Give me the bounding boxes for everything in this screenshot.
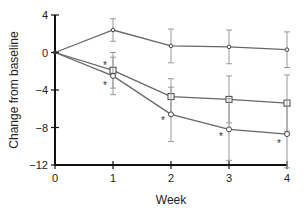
small-circle-marker bbox=[111, 28, 115, 32]
x-tick-label: 1 bbox=[110, 172, 116, 184]
circle-marker bbox=[227, 127, 232, 132]
significance-asterisk: * bbox=[103, 60, 107, 71]
significance-asterisk: * bbox=[219, 131, 223, 142]
y-tick-label: 4 bbox=[42, 9, 48, 21]
series-2 bbox=[55, 53, 290, 132]
series-3 bbox=[55, 53, 290, 168]
series-1 bbox=[55, 19, 290, 68]
significance-annotations: ***** bbox=[103, 60, 281, 150]
x-tick-label: 4 bbox=[284, 172, 290, 184]
circle-marker bbox=[169, 112, 174, 117]
y-tick-label: 0 bbox=[42, 47, 48, 59]
small-circle-marker bbox=[169, 44, 173, 48]
axes: 40−4−8−1201234 bbox=[29, 9, 290, 184]
x-tick-label: 0 bbox=[52, 172, 58, 184]
origin-marker bbox=[53, 51, 57, 55]
significance-asterisk: * bbox=[161, 115, 165, 126]
y-tick-label: −8 bbox=[35, 122, 48, 134]
circle-marker bbox=[285, 132, 290, 137]
x-axis-title: Week bbox=[156, 193, 187, 207]
significance-asterisk: * bbox=[103, 80, 107, 91]
small-circle-marker bbox=[285, 48, 289, 52]
small-circle-marker bbox=[227, 45, 231, 49]
circle-marker bbox=[111, 73, 116, 78]
x-tick-label: 3 bbox=[226, 172, 232, 184]
line-chart: 40−4−8−1201234 ***** Week Change from ba… bbox=[0, 0, 305, 209]
significance-asterisk: * bbox=[277, 138, 281, 149]
y-tick-label: −4 bbox=[35, 84, 48, 96]
y-axis-title: Change from baseline bbox=[7, 31, 21, 149]
series-group bbox=[53, 19, 290, 168]
x-tick-label: 2 bbox=[168, 172, 174, 184]
y-tick-label: −12 bbox=[29, 159, 48, 171]
